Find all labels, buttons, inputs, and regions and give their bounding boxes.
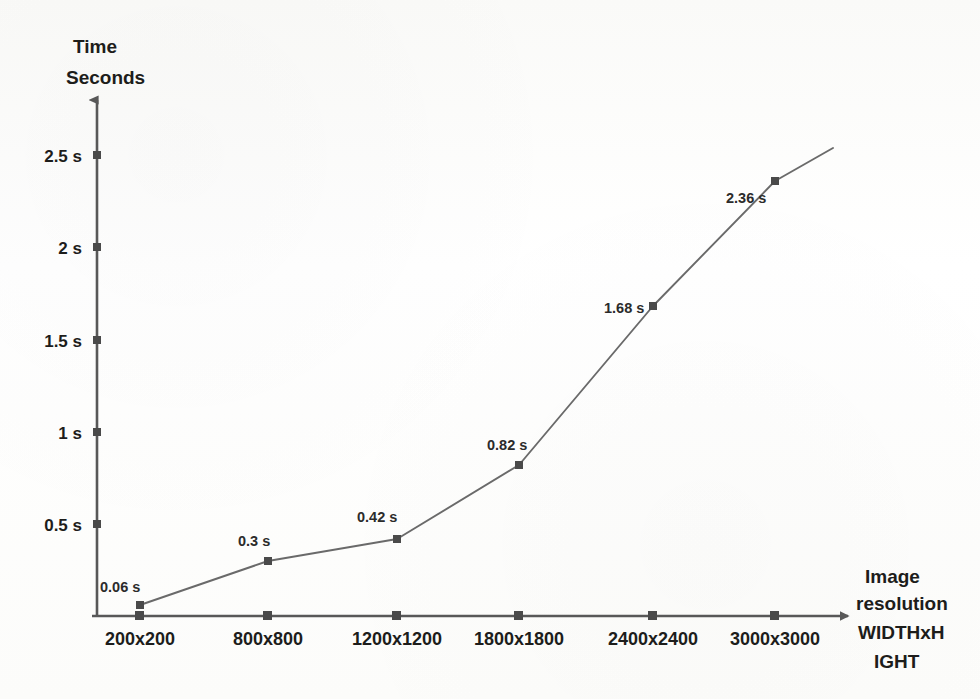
y-tick-marker [93, 520, 101, 528]
x-axis-title-line2: resolution [856, 593, 948, 614]
y-axis-title-line1: Time [73, 36, 117, 57]
y-tick-label-2.5: 2.5 s [44, 147, 82, 166]
data-label-0: 0.06 s [100, 579, 140, 595]
x-axis-title-line4: IGHT [874, 651, 920, 672]
x-tick-label-800x800: 800x800 [233, 629, 303, 649]
data-label-2: 0.42 s [357, 509, 397, 525]
chart-container: Time Seconds 2.5 s 2 s 1.5 s 1 s 0.5 s [0, 0, 980, 699]
data-point-marker[interactable] [649, 302, 657, 310]
y-tick-marker [93, 151, 101, 159]
x-tick-marker [648, 611, 657, 620]
data-point-marker[interactable] [136, 601, 144, 609]
x-axis-title-line1: Image [865, 566, 920, 587]
x-tick-label-3000x3000: 3000x3000 [730, 629, 820, 649]
x-tick-marker [514, 611, 523, 620]
y-tick-label-2: 2 s [58, 239, 82, 258]
y-axis-title-line2: Seconds [66, 67, 145, 88]
x-tick-marker [392, 611, 401, 620]
data-label-5: 2.36 s [726, 190, 766, 206]
y-tick-label-0.5: 0.5 s [44, 516, 82, 535]
x-tick-marker [135, 611, 144, 620]
x-tick-label-1800x1800: 1800x1800 [474, 629, 564, 649]
data-point-marker[interactable] [771, 177, 779, 185]
y-tick-marker [93, 428, 101, 436]
y-tick-label-1.5: 1.5 s [44, 332, 82, 351]
x-axis-title-line3: WIDTHxH [858, 622, 945, 643]
data-point-marker[interactable] [515, 461, 523, 469]
y-tick-marker [93, 243, 101, 251]
y-tick-label-1: 1 s [58, 424, 82, 443]
y-tick-marker [93, 336, 101, 344]
x-tick-label-200x200: 200x200 [105, 629, 175, 649]
data-point-markers [136, 177, 779, 609]
x-tick-marker [263, 611, 272, 620]
data-point-marker[interactable] [264, 557, 272, 565]
data-label-3: 0.82 s [487, 437, 527, 453]
data-label-4: 1.68 s [604, 300, 644, 316]
line-chart-plot: Time Seconds 2.5 s 2 s 1.5 s 1 s 0.5 s [0, 0, 980, 699]
x-tick-label-2400x2400: 2400x2400 [608, 629, 698, 649]
data-label-1: 0.3 s [238, 533, 270, 549]
data-point-marker[interactable] [393, 535, 401, 543]
x-tick-label-1200x1200: 1200x1200 [352, 629, 442, 649]
x-tick-marker [770, 611, 779, 620]
